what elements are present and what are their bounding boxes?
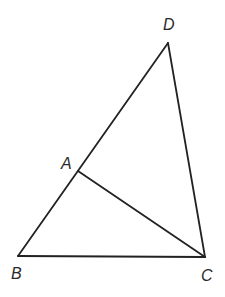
segment-bc	[18, 256, 205, 257]
triangle-diagram	[0, 0, 225, 297]
label-b: B	[11, 266, 22, 282]
segment-bd	[18, 43, 168, 256]
label-d: D	[163, 17, 175, 33]
label-c: C	[201, 268, 213, 284]
segment-dc	[168, 43, 205, 257]
segment-ac	[78, 171, 205, 257]
label-a: A	[61, 156, 72, 172]
